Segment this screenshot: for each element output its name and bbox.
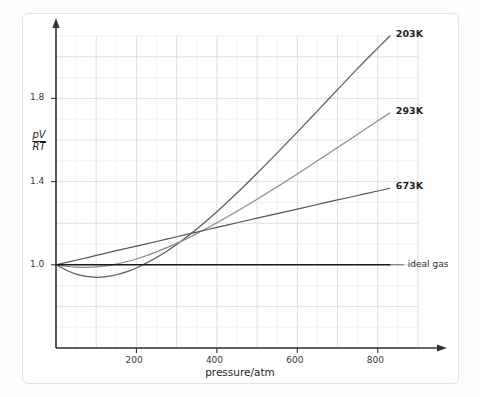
y-axis-label-denominator: RT: [32, 141, 45, 153]
x-tick-label: 400: [206, 355, 223, 365]
series-label-203k: 203K: [396, 28, 423, 39]
y-tick-label: 1.4: [30, 176, 44, 186]
series-label-ideal-gas: ideal gas: [408, 259, 449, 269]
y-tick-label: 1.0: [30, 259, 44, 269]
x-tick-label: 800: [367, 355, 384, 365]
compressibility-chart: [0, 0, 480, 397]
y-tick-label: 1.8: [30, 92, 44, 102]
axis-ticks: [51, 98, 378, 353]
chart-page: pV RT pressure/atm 2004006008001.01.41.8…: [0, 0, 480, 397]
x-axis-label: pressure/atm: [0, 366, 480, 378]
curve-673k: [56, 188, 390, 265]
axes: [52, 18, 447, 352]
curve-203k: [56, 36, 390, 277]
grid-minor: [56, 36, 418, 348]
x-tick-label: 200: [125, 355, 142, 365]
y-axis-label: pV RT: [24, 130, 54, 153]
y-axis-label-numerator: pV: [24, 130, 54, 141]
x-tick-label: 600: [286, 355, 303, 365]
y-axis-arrow: [52, 18, 59, 28]
series-label-293k: 293K: [396, 105, 423, 116]
series-label-673k: 673K: [396, 180, 423, 191]
x-axis-arrow: [437, 344, 447, 351]
data-curves: [56, 36, 390, 277]
